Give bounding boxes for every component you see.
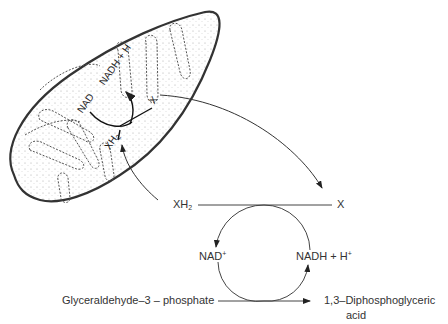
product-label-line1: 1,3–Diphosphoglyceric bbox=[324, 294, 435, 306]
cycle-nad-label: NAD+ bbox=[199, 250, 226, 262]
diagram-canvas: NAD NADH + H X XH2 XH2 X NAD+ NADH + H+ … bbox=[0, 0, 448, 324]
cycle-x-label: X bbox=[337, 198, 344, 210]
cycle-nadh-label: NADH + H+ bbox=[296, 250, 352, 262]
cycle-xh2-label: XH2 bbox=[173, 198, 192, 211]
substrate-label: Glyceraldehyde–3 – phosphate bbox=[62, 294, 214, 306]
mitochondrion bbox=[10, 12, 219, 203]
diagram-graphics bbox=[0, 0, 448, 324]
product-label-line2: acid bbox=[346, 309, 366, 321]
